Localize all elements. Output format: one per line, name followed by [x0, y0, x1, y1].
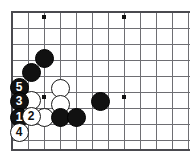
go-diagram-root: 53124	[0, 0, 190, 151]
stone-black[interactable]	[91, 92, 110, 111]
star-point-top-right	[122, 15, 126, 19]
star-point-mid-left	[42, 95, 46, 99]
star-point-top-left	[42, 15, 46, 19]
stone-move-number: 4	[11, 124, 28, 141]
board-edges	[11, 12, 190, 151]
stone-move-4-white[interactable]: 4	[10, 123, 29, 142]
stone-move-number: 2	[23, 108, 40, 125]
star-point-mid-right	[122, 95, 126, 99]
board-grid	[12, 12, 190, 150]
stone-black[interactable]	[67, 108, 86, 127]
